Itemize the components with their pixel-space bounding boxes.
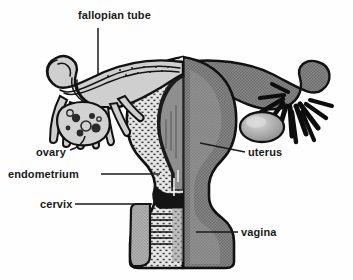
label-ovary: ovary <box>36 147 66 158</box>
reproductive-system-illustration <box>0 0 353 280</box>
vagina-left-wall <box>130 204 150 266</box>
label-fallopian-tube: fallopian tube <box>78 10 151 21</box>
vagina-left-lumen <box>172 208 183 262</box>
label-endometrium: endometrium <box>8 169 79 180</box>
label-uterus: uterus <box>248 147 282 158</box>
anatomy-figure: fallopian tube ovary endometrium cervix … <box>0 0 353 280</box>
label-vagina: vagina <box>241 227 276 238</box>
ovary-right <box>240 112 284 142</box>
label-cervix: cervix <box>40 199 72 210</box>
left-half-group <box>47 56 183 268</box>
